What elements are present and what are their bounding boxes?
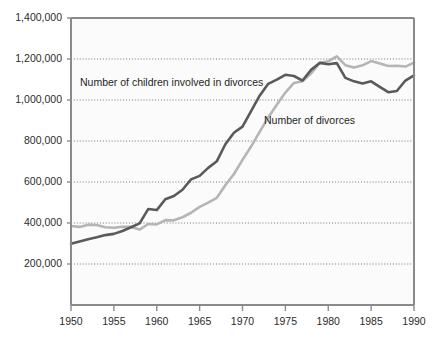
divorce-statistics-line-chart: 200,000400,000600,000800,0001,000,0001,2…	[0, 0, 438, 343]
x-tick-label: 1950	[59, 315, 83, 327]
chart-canvas: 200,000400,000600,000800,0001,000,0001,2…	[0, 0, 438, 343]
x-tick-label: 1955	[102, 315, 126, 327]
series-annotation-children-involved: Number of children involved in divorces	[80, 76, 263, 88]
x-tick-label: 1960	[145, 315, 169, 327]
x-tick-label: 1985	[359, 315, 383, 327]
y-tick-label: 800,000	[24, 134, 62, 146]
x-tick-label: 1970	[231, 315, 255, 327]
x-tick-label: 1990	[402, 315, 426, 327]
y-tick-label: 1,400,000	[15, 11, 62, 23]
y-tick-label: 1,000,000	[15, 93, 62, 105]
x-tick-label: 1980	[317, 315, 341, 327]
series-annotation-divorces: Number of divorces	[264, 114, 355, 126]
x-tick-label: 1975	[274, 315, 298, 327]
y-tick-label: 400,000	[24, 216, 62, 228]
x-axis-tick-labels: 195019551960196519701975198019851990	[59, 315, 426, 327]
y-tick-label: 200,000	[24, 257, 62, 269]
y-tick-label: 1,200,000	[15, 52, 62, 64]
y-tick-label: 600,000	[24, 175, 62, 187]
x-tick-label: 1965	[188, 315, 212, 327]
